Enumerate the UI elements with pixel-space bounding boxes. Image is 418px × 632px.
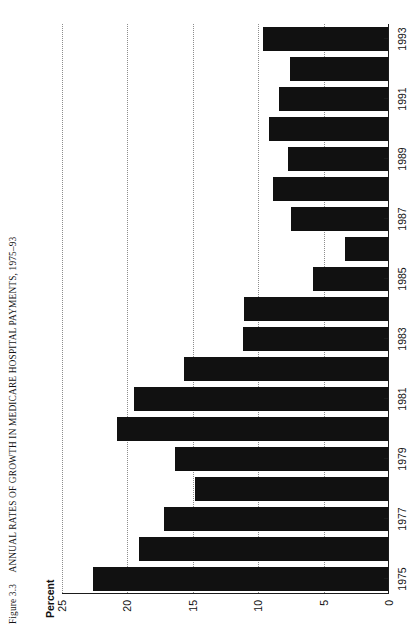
category-tick [384,518,389,519]
value-tick-label: 15 [187,600,199,612]
value-tick-label: 0 [383,600,395,606]
bar [117,417,389,441]
plot-area: 0510152025 19751977197919811983198519871… [62,24,389,594]
category-tick-label: 1977 [396,507,408,530]
bar [288,147,389,171]
bar [273,177,389,201]
category-tick [384,98,389,99]
gridline [62,24,63,594]
value-tick-label: 20 [121,600,133,612]
category-tick [384,158,389,159]
category-tick [384,458,389,459]
value-tick-label: 5 [318,600,330,606]
bar [290,57,389,81]
bar [243,327,389,351]
value-axis-line [62,593,389,594]
category-axis-line [388,24,389,594]
bar [279,87,389,111]
category-tick [384,218,389,219]
category-tick-label: 1991 [396,87,408,110]
bar [134,387,389,411]
value-tick-label: 10 [252,600,264,612]
category-tick [384,278,389,279]
bar [263,27,389,51]
category-tick-label: 1983 [396,327,408,350]
category-tick-label: 1987 [396,207,408,230]
figure-caption: Figure 3.3 ANNUAL RATES OF GROWTH IN MED… [8,237,18,624]
category-tick [384,38,389,39]
bar [291,207,389,231]
category-tick-label: 1993 [396,27,408,50]
gridline [127,24,128,594]
bar [93,567,389,591]
category-tick-label: 1989 [396,147,408,170]
bar [313,267,389,291]
category-tick-label: 1981 [396,387,408,410]
category-tick [384,338,389,339]
category-tick-label: 1985 [396,267,408,290]
bar [345,237,389,261]
bar [244,297,389,321]
bar [195,477,389,501]
figure-number: Figure 3.3 [8,584,18,624]
category-tick-label: 1975 [396,567,408,590]
bar [269,117,389,141]
figure-title: ANNUAL RATES OF GROWTH IN MEDICARE HOSPI… [8,237,18,573]
bar [184,357,389,381]
figure-page: Figure 3.3 ANNUAL RATES OF GROWTH IN MED… [0,0,418,632]
category-tick [384,578,389,579]
bar [164,507,389,531]
category-tick-label: 1979 [396,447,408,470]
category-tick [384,398,389,399]
bar [139,537,389,561]
value-tick-label: 25 [56,600,68,612]
bar [175,447,390,471]
value-axis-title: Percent [44,579,56,618]
figure-canvas: Figure 3.3 ANNUAL RATES OF GROWTH IN MED… [0,0,418,632]
